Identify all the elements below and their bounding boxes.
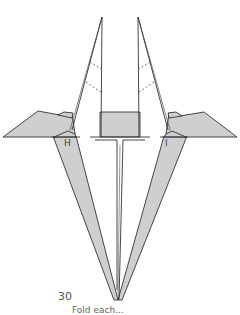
point-label-h: H [64,138,71,148]
left-fold-dash-2 [86,82,101,92]
right-fold-dash-1 [139,62,150,69]
right-leg [118,136,187,300]
right-fold-dash-2 [139,82,154,92]
left-fold-dash-1 [90,62,101,69]
left-leg [53,136,118,300]
center-panel [100,112,140,137]
point-label-i: I [165,138,168,148]
step-number: 30 [58,290,72,303]
step-caption: Fold each... [72,305,124,315]
